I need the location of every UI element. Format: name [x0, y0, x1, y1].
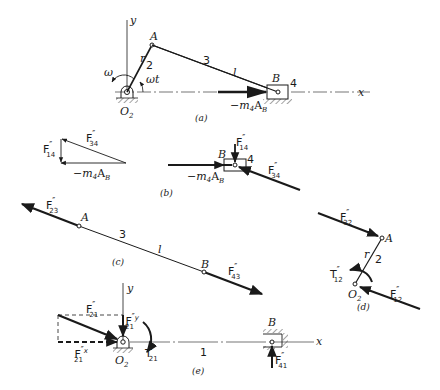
- caption-e: (e): [192, 366, 205, 376]
- pivot-label: O2: [348, 288, 362, 303]
- crank-r-label: r: [364, 248, 370, 261]
- caption-b: (b): [160, 188, 173, 198]
- joint-b: [276, 90, 280, 94]
- panel-c: F″23 A 3 l B F″43 (c): [22, 197, 262, 294]
- triangle-f14-label: F″14: [43, 141, 56, 159]
- omega-arrow: [112, 75, 134, 82]
- slider-num-label: 4: [247, 153, 254, 166]
- pivot-label: O2: [115, 354, 129, 369]
- triangle-f34-label: F″34: [86, 130, 99, 148]
- triangle-m4ab-label: −m4AB: [73, 167, 110, 182]
- slider-num-label: 4: [290, 77, 297, 90]
- y-axis-label: y: [129, 14, 137, 27]
- angle-arc: [140, 82, 143, 92]
- t21-label: T″21: [144, 345, 158, 363]
- panel-a: y x O2 A r 2 ω ωt 3 l B 4 −m4AB: [104, 14, 370, 123]
- point-a-label: A: [149, 30, 158, 43]
- ground-hatch: [113, 348, 133, 353]
- pivot-o2: [121, 340, 125, 344]
- caption-a: (a): [195, 113, 208, 123]
- f12-label: F″12: [390, 286, 402, 304]
- panel-e: y x F″21 F″y21 F″x21 O2 T″21 1 (e) B F″4…: [58, 282, 323, 376]
- point-b-label: B: [200, 258, 209, 271]
- point-a-label: A: [80, 211, 89, 224]
- link-3: [79, 226, 204, 272]
- caption-c: (c): [112, 257, 125, 267]
- y-axis-label: y: [126, 282, 134, 295]
- rod-num-label: 3: [119, 228, 126, 241]
- slider-ground-hatch: [263, 99, 292, 104]
- ground-hatch: [116, 98, 138, 103]
- f21-label: F″21: [86, 301, 98, 319]
- crank-num-label: 2: [375, 253, 382, 266]
- t12-torque-arrow: [350, 269, 372, 282]
- omega-label: ω: [104, 66, 113, 79]
- joint-a: [77, 224, 81, 228]
- joint-b: [270, 340, 274, 344]
- frame-num-label: 1: [200, 346, 207, 359]
- joint-a: [380, 236, 384, 240]
- slider-m4ab-label: −m4AB: [187, 170, 224, 185]
- rod-l-label: l: [158, 243, 162, 256]
- slider-joint-b: [233, 163, 237, 167]
- slider-f34-label: F″34: [268, 162, 281, 180]
- angle-label: ωt: [146, 73, 160, 86]
- f41-label: F″41: [275, 352, 287, 370]
- mechanism-force-diagram: y x O2 A r 2 ω ωt 3 l B 4 −m4AB: [0, 0, 440, 390]
- f23-label: F″23: [46, 197, 58, 215]
- point-b-label: B: [267, 316, 276, 329]
- pivot-o2: [353, 282, 357, 286]
- point-a-label: A: [384, 232, 393, 245]
- f21-arrow: [58, 315, 117, 339]
- f21y-label: F″y21: [125, 313, 140, 331]
- panel-d: F″32 A r 2 T″12 O2 F″12 (d): [318, 209, 420, 312]
- x-axis-label: x: [358, 86, 365, 99]
- crank-num-label: 2: [146, 59, 153, 72]
- f21x-label: F″x21: [74, 346, 89, 364]
- pivot-label: O2: [120, 105, 134, 120]
- f43-label: F″43: [228, 263, 240, 281]
- slider-f14-label: F″14: [236, 134, 249, 152]
- caption-d: (d): [357, 302, 370, 312]
- point-b-label: B: [271, 72, 280, 85]
- f32-label: F″32: [340, 209, 352, 227]
- panel-b: F″14 F″34 −m4AB B 4 F″14 F″34 −m4AB (b): [43, 130, 300, 198]
- inertia-force-label: −m4AB: [230, 99, 267, 114]
- slider-b-label: B: [217, 148, 226, 161]
- x-axis-label: x: [316, 335, 323, 348]
- slot-right-hatch: [283, 333, 288, 348]
- slot-top-hatch: [263, 329, 283, 333]
- t12-label: T″12: [329, 266, 343, 284]
